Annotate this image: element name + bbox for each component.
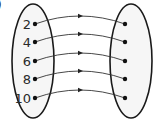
domain-element-label: 10 xyxy=(14,91,31,106)
domain-element-dot xyxy=(33,59,37,63)
domain-element-label: 2 xyxy=(23,17,31,32)
domain-element-label: 4 xyxy=(23,35,31,50)
arrowhead-icon xyxy=(78,14,83,18)
domain-element-dot xyxy=(33,96,37,100)
codomain-element-dot xyxy=(123,77,127,81)
arrowhead-icon xyxy=(78,69,83,73)
arrowhead-icon xyxy=(78,88,83,92)
figure-label-fragment: ) xyxy=(0,0,2,12)
mapping-diagram: ) 246810 xyxy=(0,0,155,123)
arrowhead-icon xyxy=(78,51,83,55)
domain-element-label: 8 xyxy=(23,72,31,87)
codomain-element-dot xyxy=(123,59,127,63)
domain-element-dot xyxy=(33,40,37,44)
codomain-element-dot xyxy=(123,96,127,100)
codomain-element-dot xyxy=(123,40,127,44)
domain-element-dot xyxy=(33,22,37,26)
domain-element-dot xyxy=(33,77,37,81)
codomain-element-dot xyxy=(123,22,127,26)
arrowhead-icon xyxy=(78,32,83,36)
domain-element-label: 6 xyxy=(23,54,31,69)
